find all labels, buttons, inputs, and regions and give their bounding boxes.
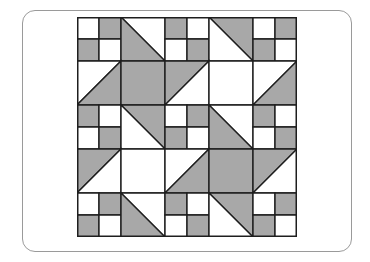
four-patch-square [253,39,275,61]
four-patch-square [253,215,275,237]
four-patch-square [99,215,121,237]
four-patch-square [165,17,187,39]
four-patch-square [275,17,297,39]
four-patch-square [165,127,187,149]
solid-square [121,149,165,193]
four-patch-square [187,39,209,61]
four-patch-square [253,193,275,215]
four-patch-square [165,193,187,215]
four-patch-square [253,127,275,149]
solid-square [121,61,165,105]
four-patch-square [77,39,99,61]
four-patch-square [187,105,209,127]
four-patch-square [275,39,297,61]
four-patch-square [187,17,209,39]
four-patch-square [275,127,297,149]
four-patch-square [275,193,297,215]
four-patch-square [253,17,275,39]
four-patch-square [99,39,121,61]
four-patch-square [77,17,99,39]
four-patch-square [77,193,99,215]
four-patch-square [99,127,121,149]
quilt-pattern [77,17,297,237]
four-patch-square [187,193,209,215]
four-patch-square [99,105,121,127]
solid-square [209,61,253,105]
four-patch-square [77,215,99,237]
four-patch-square [275,215,297,237]
four-patch-square [99,193,121,215]
four-patch-square [77,127,99,149]
four-patch-square [275,105,297,127]
four-patch-square [165,215,187,237]
four-patch-square [187,127,209,149]
four-patch-square [253,105,275,127]
four-patch-square [165,105,187,127]
four-patch-square [187,215,209,237]
four-patch-square [165,39,187,61]
four-patch-square [77,105,99,127]
four-patch-square [99,17,121,39]
solid-square [209,149,253,193]
quilt-svg [77,17,297,237]
